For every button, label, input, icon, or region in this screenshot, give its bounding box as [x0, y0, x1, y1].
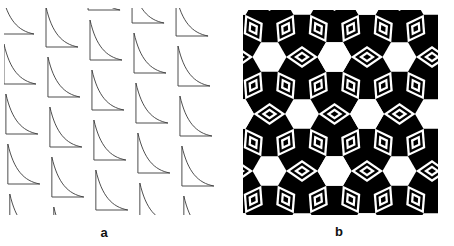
panel-a-canvas [4, 8, 216, 215]
figure-root: a b [0, 0, 454, 246]
panel-b-hex-tessellation [243, 10, 438, 215]
panel-a-line-tessellation [4, 8, 216, 215]
panel-b-canvas [243, 10, 438, 215]
panel-b-label: b [319, 225, 359, 238]
panel-a-label: a [84, 226, 124, 239]
